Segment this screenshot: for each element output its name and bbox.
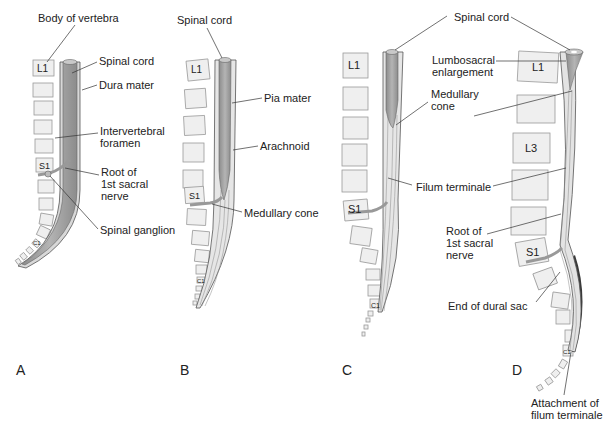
label-filum-terminale: Filum terminale [416,181,491,193]
vertebra-label-l1: L1 [37,63,48,75]
panel-d-drawing [511,49,583,391]
vertebra-label-c1: C1 [197,275,205,287]
vertebra-label-l1: L1 [532,61,544,73]
panel-letter-b: B [180,362,189,378]
label-lumbosacral-enlargement: Lumbosacral enlargement [432,54,495,78]
vertebra-label-s1: S1 [526,246,539,258]
label-medullary-cone: Medullary cone [431,88,479,112]
label-end-of-dural-sac: End of dural sac [448,300,528,312]
label-intervertebral-foramen: Intervertebral foramen [100,125,165,149]
label-medullary-cone: Medullary cone [244,207,319,219]
vertebra-label-c1: C1 [371,300,380,312]
label-pia-mater: Pia mater [264,92,311,104]
vertebra-label-c1: C1 [563,346,571,358]
label-spinal-ganglion: Spinal ganglion [100,224,175,236]
label-dura-mater: Dura mater [99,79,154,91]
label-arachnoid: Arachnoid [260,140,310,152]
label-spinal-cord: Spinal cord [177,14,232,26]
panel-c-drawing [342,50,403,337]
vertebra-label-s1: S1 [348,203,361,215]
label-attachment-of-filum-terminale: Attachment of filum terminale [531,397,603,421]
vertebra-label-c1: C1 [33,237,41,249]
vertebra-label-l1: L1 [191,64,202,76]
vertebra-label-s1: S1 [189,190,200,202]
label-spinal-cord: Spinal cord [99,55,154,67]
label-spinal-cord: Spinal cord [454,11,509,23]
vertebra-label-s1: S1 [39,160,50,172]
vertebra-label-l1: L1 [348,59,360,71]
panel-letter-d: D [512,362,522,378]
panel-letter-a: A [16,362,25,378]
label-root-of-1st-sacral-nerve: Root of 1st sacral nerve [446,225,493,261]
panel-letter-c: C [342,362,352,378]
panel-b-drawing [183,58,236,309]
label-root-of-1st-sacral-nerve: Root of 1st sacral nerve [101,166,148,202]
vertebra-label-l3: L3 [525,142,537,154]
label-body-of-vertebra: Body of vertebra [38,12,119,24]
